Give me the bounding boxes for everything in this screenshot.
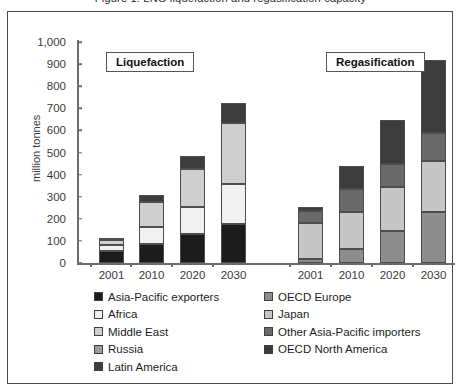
bar-segment: [298, 259, 323, 263]
bar-segment: [180, 156, 205, 169]
legend-swatch-icon: [94, 345, 103, 354]
bar-segment: [221, 103, 246, 123]
chart-page: Figure 1: LNG liquefaction and regasific…: [0, 0, 461, 391]
bar-segment: [421, 161, 446, 211]
y-tick-label: 700: [20, 102, 66, 114]
group-label-regasification: Regasification: [326, 52, 425, 72]
legend-item: Africa: [94, 306, 219, 324]
legend-swatch-icon: [94, 362, 103, 371]
x-tick-label: 2030: [412, 269, 456, 281]
x-tick-mark: [130, 263, 132, 267]
bar-segment: [139, 202, 164, 226]
bar-segment: [339, 249, 364, 263]
bar-segment: [99, 238, 124, 240]
legend: Asia-Pacific exportersAfricaMiddle EastR…: [26, 288, 446, 388]
y-tick-label: 800: [20, 80, 66, 92]
y-tick-label: 1,000: [20, 36, 66, 48]
x-tick-mark: [212, 263, 214, 267]
bar-segment: [380, 120, 405, 163]
y-tick-label: 400: [20, 169, 66, 181]
y-tick-label: 100: [20, 235, 66, 247]
x-tick-mark: [412, 263, 414, 267]
legend-swatch-icon: [94, 310, 103, 319]
x-axis-line: [77, 263, 455, 265]
legend-label: OECD North America: [278, 343, 387, 355]
y-tick-label: 900: [20, 58, 66, 70]
legend-column-right: OECD EuropeJapanOther Asia-Pacific impor…: [264, 288, 421, 358]
y-tick-label: 500: [20, 147, 66, 159]
bar-segment: [298, 223, 323, 258]
x-tick-mark: [289, 263, 291, 267]
x-tick-label: 2020: [171, 269, 215, 281]
x-tick-label: 2001: [90, 269, 134, 281]
legend-swatch-icon: [94, 292, 103, 301]
legend-swatch-icon: [264, 310, 273, 319]
y-tick-label: 300: [20, 191, 66, 203]
legend-label: Japan: [278, 308, 309, 320]
bar-segment: [139, 195, 164, 203]
y-tick-label: 600: [20, 124, 66, 136]
legend-item: Russia: [94, 341, 219, 359]
legend-item: Middle East: [94, 323, 219, 341]
legend-item: Latin America: [94, 358, 219, 376]
legend-item: OECD North America: [264, 341, 421, 359]
bar-segment: [221, 184, 246, 224]
bar-segment: [180, 169, 205, 207]
legend-label: Middle East: [108, 326, 168, 338]
legend-label: Asia-Pacific exporters: [108, 291, 219, 303]
bar-segment: [298, 207, 323, 211]
bar-segment: [380, 164, 405, 187]
legend-item: OECD Europe: [264, 288, 421, 306]
bar-segment: [380, 231, 405, 263]
x-tick-mark: [371, 263, 373, 267]
legend-label: Africa: [108, 308, 137, 320]
x-tick-label: 2020: [371, 269, 415, 281]
legend-swatch-icon: [264, 327, 273, 336]
bar-segment: [180, 207, 205, 235]
legend-swatch-icon: [264, 292, 273, 301]
legend-swatch-icon: [264, 345, 273, 354]
x-tick-label: 2010: [130, 269, 174, 281]
y-tick-label: 200: [20, 213, 66, 225]
bar-segment: [139, 227, 164, 245]
x-tick-label: 2001: [289, 269, 333, 281]
group-label-liquefaction: Liquefaction: [106, 52, 194, 72]
legend-label: OECD Europe: [278, 291, 352, 303]
bar-segment: [99, 245, 124, 251]
legend-item: Other Asia-Pacific importers: [264, 323, 421, 341]
plot-area: [77, 42, 454, 263]
bar-segment: [380, 187, 405, 231]
bar-segment: [221, 123, 246, 184]
bar-segment: [298, 211, 323, 223]
x-tick-mark: [330, 263, 332, 267]
legend-label: Other Asia-Pacific importers: [278, 326, 421, 338]
figure-caption: Figure 1: LNG liquefaction and regasific…: [0, 0, 461, 4]
bar-segment: [421, 212, 446, 263]
bar-segment: [180, 234, 205, 263]
chart-frame: million tonnes 0100200300400500600700800…: [7, 11, 453, 384]
legend-label: Russia: [108, 343, 143, 355]
x-tick-label: 2030: [212, 269, 256, 281]
bar-segment: [339, 212, 364, 248]
legend-item: Japan: [264, 306, 421, 324]
legend-label: Latin America: [108, 361, 178, 373]
x-tick-mark: [90, 263, 92, 267]
bar-segment: [99, 240, 124, 246]
legend-swatch-icon: [94, 327, 103, 336]
bar-segment: [339, 166, 364, 189]
legend-item: Asia-Pacific exporters: [94, 288, 219, 306]
x-tick-label: 2010: [330, 269, 374, 281]
bar-segment: [421, 60, 446, 133]
legend-column-left: Asia-Pacific exportersAfricaMiddle EastR…: [94, 288, 219, 376]
y-tick-label: 0: [20, 257, 66, 269]
bar-segment: [339, 189, 364, 212]
x-tick-mark: [171, 263, 173, 267]
bar-segment: [221, 224, 246, 263]
bar-segment: [139, 244, 164, 263]
bar-segment: [99, 251, 124, 263]
bar-segment: [421, 133, 446, 162]
